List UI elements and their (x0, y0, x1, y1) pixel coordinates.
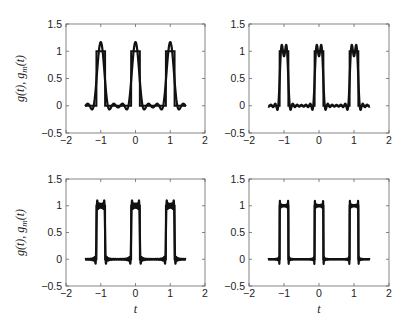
panel-top-right: −2−1012−0.500.511.5 (224, 18, 392, 147)
y-tick-label: 1.5 (47, 18, 62, 30)
y-tick-label: 0 (56, 99, 62, 111)
figure: −2−1012−0.500.511.5g(t), gm(t)−2−1012−0.… (0, 0, 414, 331)
x-tick-label: 2 (202, 134, 208, 146)
x-tick-label: 2 (202, 287, 208, 299)
x-tick-label: 0 (316, 134, 322, 146)
series-g (268, 206, 370, 260)
series-g (85, 51, 186, 106)
y-tick-label: 0 (239, 253, 245, 265)
y-tick-label: 0 (239, 99, 245, 111)
x-tick-label: 1 (167, 134, 173, 146)
x-tick-label: −1 (95, 134, 107, 146)
x-tick-label: 0 (133, 134, 139, 146)
x-axis-label: t (134, 302, 138, 316)
panel-bottom-right: −2−1012−0.500.511.5t (224, 173, 392, 317)
y-axis-label: g(t), gm(t) (13, 209, 29, 256)
y-tick-label: −0.5 (224, 127, 245, 139)
y-tick-label: 1 (239, 199, 245, 211)
y-tick-label: −0.5 (41, 127, 62, 139)
y-tick-label: −0.5 (41, 280, 62, 292)
x-axis-label: t (317, 302, 321, 316)
series-g (268, 51, 370, 106)
x-tick-label: −1 (95, 287, 107, 299)
axes-box (66, 179, 205, 286)
x-tick-label: 1 (351, 287, 357, 299)
y-axis-label: g(t), gm(t) (13, 55, 29, 102)
x-tick-label: 2 (386, 134, 392, 146)
x-tick-label: 1 (167, 287, 173, 299)
y-tick-label: 0.5 (47, 72, 62, 84)
y-tick-label: −0.5 (224, 280, 245, 292)
y-tick-label: 1 (239, 45, 245, 57)
y-tick-label: 1.5 (47, 173, 62, 185)
panel-top-left: −2−1012−0.500.511.5g(t), gm(t) (13, 18, 208, 147)
x-tick-label: −1 (278, 287, 290, 299)
y-tick-label: 0 (56, 253, 62, 265)
series-g (85, 206, 186, 260)
series-gm (268, 45, 370, 110)
y-tick-label: 1 (56, 199, 62, 211)
y-tick-label: 1 (56, 45, 62, 57)
series-gm (85, 200, 186, 263)
axes-box (249, 24, 389, 133)
y-tick-label: 0.5 (230, 72, 245, 84)
series-gm (268, 201, 370, 264)
panel-bottom-left: −2−1012−0.500.511.5g(t), gm(t)t (13, 173, 208, 317)
axes-box (66, 24, 205, 133)
y-tick-label: 0.5 (47, 226, 62, 238)
y-tick-label: 1.5 (230, 18, 245, 30)
x-tick-label: 2 (386, 287, 392, 299)
y-tick-label: 0.5 (230, 226, 245, 238)
x-tick-label: 0 (133, 287, 139, 299)
x-tick-label: −1 (278, 134, 290, 146)
x-tick-label: 0 (316, 287, 322, 299)
x-tick-label: 1 (351, 134, 357, 146)
axes-box (249, 179, 389, 286)
y-tick-label: 1.5 (230, 173, 245, 185)
